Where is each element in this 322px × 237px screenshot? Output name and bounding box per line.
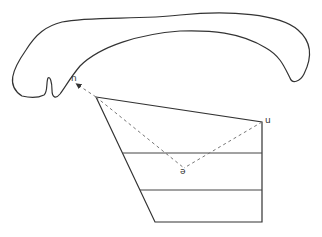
dashed-line-left bbox=[96, 97, 184, 168]
vowel-diagram bbox=[0, 0, 322, 237]
label-u: u bbox=[265, 116, 271, 125]
vowel-quadrilateral bbox=[96, 97, 262, 222]
palate-outline bbox=[12, 13, 309, 97]
label-schwa: ə bbox=[180, 167, 186, 176]
dashed-arrow-to-n bbox=[78, 85, 96, 97]
label-n: n bbox=[71, 74, 77, 83]
dashed-line-right bbox=[184, 122, 262, 168]
